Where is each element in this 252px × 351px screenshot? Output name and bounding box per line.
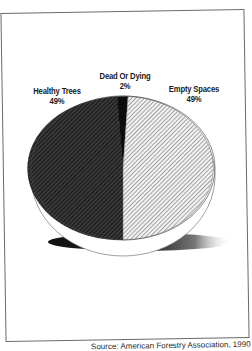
label-dead-or-dying: Dead Or Dying 2% [95, 71, 155, 91]
label-empty-spaces: Empty Spaces 49% [163, 84, 224, 104]
pie-chart [0, 0, 252, 351]
label-empty-spaces-name: Empty Spaces [163, 84, 224, 94]
label-healthy-trees: Healthy Trees 49% [27, 86, 87, 106]
label-empty-spaces-value: 49% [163, 94, 224, 104]
label-healthy-trees-name: Healthy Trees [27, 86, 87, 96]
label-dead-or-dying-value: 2% [95, 81, 155, 91]
label-dead-or-dying-name: Dead Or Dying [95, 71, 155, 81]
label-healthy-trees-value: 49% [27, 96, 87, 106]
